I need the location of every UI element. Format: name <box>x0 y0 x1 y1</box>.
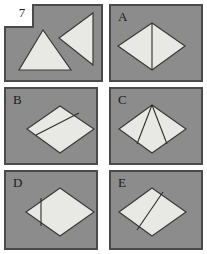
panel-D-label: D <box>13 175 22 190</box>
panel-A-label: A <box>118 9 128 24</box>
panel-D[interactable]: D <box>5 171 97 249</box>
puzzle-figure: 7 A B C D <box>0 0 207 254</box>
panel-E[interactable]: E <box>110 171 202 249</box>
panel-A[interactable]: A <box>110 5 202 81</box>
panel-stimulus[interactable]: 7 <box>5 5 102 81</box>
panel-E-label: E <box>118 175 126 190</box>
question-number: 7 <box>19 5 26 20</box>
panel-C-label: C <box>118 92 127 107</box>
panel-B-label: B <box>13 92 22 107</box>
panel-B[interactable]: B <box>5 88 97 164</box>
panel-C[interactable]: C <box>110 88 202 164</box>
